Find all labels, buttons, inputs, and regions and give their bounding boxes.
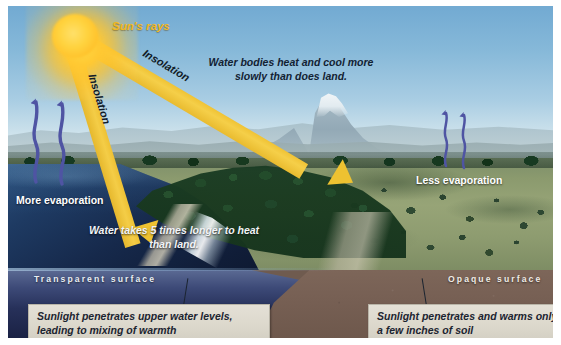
evaporation-arrows-land — [436, 104, 478, 170]
less-evaporation-label: Less evaporation — [416, 174, 502, 186]
evaporation-arrows-water — [22, 90, 82, 186]
sun-rays-label: Sun's rays — [112, 20, 170, 32]
soil-caption-box: Sunlight penetrates and warms only a few… — [368, 304, 553, 338]
waterline-divider — [8, 268, 338, 271]
sun-icon — [52, 14, 98, 58]
water-caption-box: Sunlight penetrates upper water levels, … — [28, 304, 270, 338]
shoreline-sand-right — [258, 212, 438, 270]
opaque-surface-label: Opaque surface — [448, 274, 542, 284]
insolation-figure: Sun's rays Insolation Insolation Water b… — [8, 6, 553, 338]
water-heat-note: Water takes 5 times longer to heat than … — [88, 224, 260, 252]
diagram-stage: Sun's rays Insolation Insolation Water b… — [0, 0, 561, 345]
water-bodies-note: Water bodies heat and cool more slowly t… — [202, 56, 380, 84]
more-evaporation-label: More evaporation — [16, 194, 104, 206]
transparent-surface-label: Transparent surface — [34, 274, 156, 284]
